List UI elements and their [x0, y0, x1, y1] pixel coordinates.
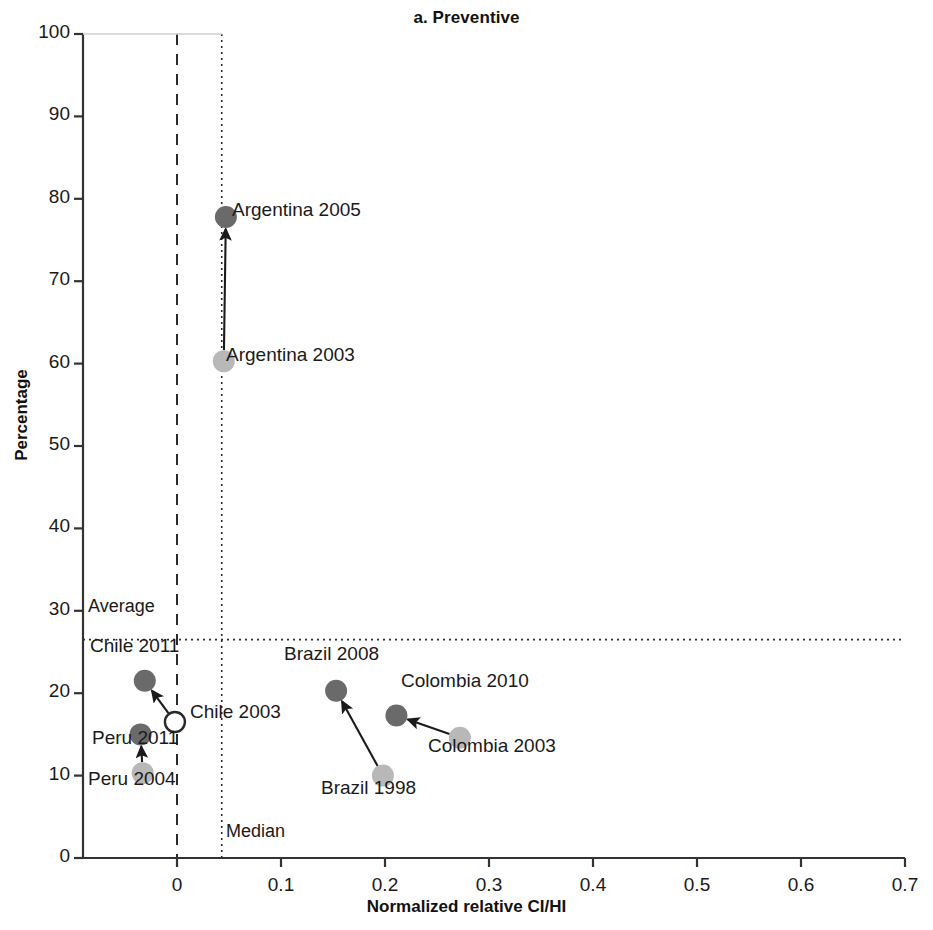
- point-label-peru-2004: Peru 2004: [88, 768, 176, 790]
- x-axis-label: Normalized relative CI/HI: [0, 897, 933, 917]
- point-label-argentina-2003: Argentina 2003: [226, 344, 355, 366]
- y-tick-label: 100: [10, 21, 70, 43]
- data-point-colombia-2010[interactable]: [385, 704, 407, 726]
- y-tick-label: 60: [10, 351, 70, 373]
- point-label-brazil-1998: Brazil 1998: [321, 777, 416, 799]
- data-point-chile-2011[interactable]: [134, 670, 156, 692]
- point-label-colombia-2003: Colombia 2003: [428, 735, 556, 757]
- point-label-chile-2011: Chile 2011: [90, 635, 179, 657]
- x-tick-label: 0.3: [449, 874, 529, 896]
- y-tick-label: 40: [10, 515, 70, 537]
- transition-arrow: [342, 701, 378, 766]
- plot-canvas: [0, 0, 933, 930]
- transition-arrow: [152, 691, 169, 714]
- point-label-chile-2003: Chile 2003: [190, 701, 281, 723]
- x-tick-label: 0.7: [865, 874, 933, 896]
- y-tick-label: 10: [10, 763, 70, 785]
- y-tick-label: 70: [10, 268, 70, 290]
- transition-arrow: [408, 719, 450, 734]
- reference-label-average: Average: [88, 596, 155, 617]
- y-tick-label: 20: [10, 680, 70, 702]
- preventive-scatter-chart: a. Preventive Percentage Normalized rela…: [0, 0, 933, 930]
- data-markers-group: [130, 206, 471, 787]
- x-tick-label: 0.5: [657, 874, 737, 896]
- y-tick-label: 50: [10, 433, 70, 455]
- data-point-brazil-2008[interactable]: [325, 680, 347, 702]
- x-tick-label: 0.6: [761, 874, 841, 896]
- transition-arrow: [224, 229, 226, 350]
- point-label-argentina-2005: Argentina 2005: [232, 199, 361, 221]
- y-tick-label: 80: [10, 186, 70, 208]
- point-label-colombia-2010: Colombia 2010: [401, 670, 529, 692]
- reference-label-median: Median: [226, 821, 285, 842]
- x-tick-label: 0.1: [241, 874, 321, 896]
- y-tick-label: 30: [10, 598, 70, 620]
- chart-title: a. Preventive: [0, 8, 933, 28]
- x-tick-label: 0.4: [553, 874, 633, 896]
- x-tick-label: 0.2: [345, 874, 425, 896]
- x-tick-label: 0: [137, 874, 217, 896]
- point-label-brazil-2008: Brazil 2008: [284, 643, 379, 665]
- point-label-peru-2011: Peru 2011: [92, 727, 178, 749]
- y-tick-label: 0: [10, 845, 70, 867]
- y-tick-label: 90: [10, 103, 70, 125]
- y-axis-label: Percentage: [12, 355, 32, 475]
